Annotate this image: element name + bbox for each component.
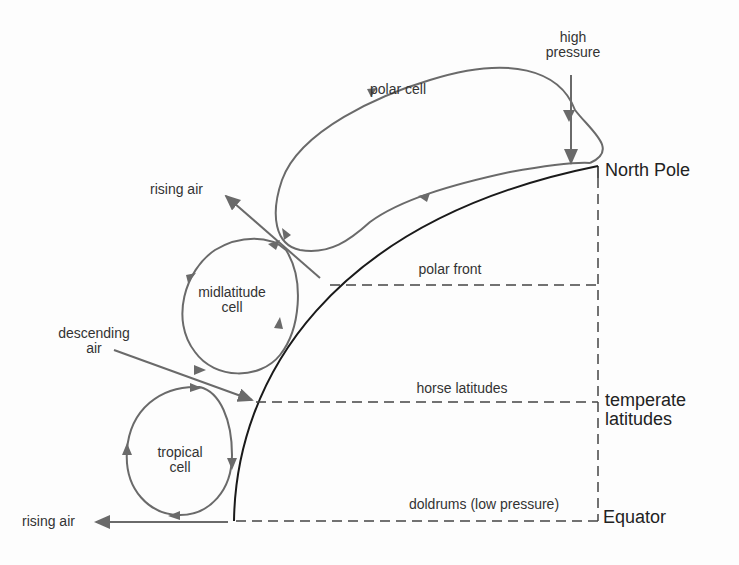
high-pressure-line1: high (546, 30, 600, 45)
temperate-line2: latitudes (605, 410, 686, 429)
midlatitude-line1: midlatitude (198, 285, 266, 300)
trop-arrow-1 (190, 383, 202, 392)
earth-surface-arc (234, 166, 598, 521)
polar-arrow-4 (282, 228, 291, 240)
atmospheric-circulation-diagram: high pressure polar cell North Pole risi… (0, 0, 739, 565)
tropical-cell-label: tropical cell (157, 445, 202, 474)
descending-air-arrow (114, 350, 252, 400)
midlatitude-cell-label: midlatitude cell (198, 285, 266, 314)
trop-arrow-3 (168, 511, 180, 520)
polar-cell-loop (276, 68, 603, 251)
rising-air-bottom-label: rising air (22, 514, 75, 529)
descending-air-label: descending air (58, 326, 130, 355)
horse-latitudes-label: horse latitudes (416, 381, 507, 396)
temperate-line1: temperate (605, 391, 686, 410)
mid-arrow-3 (194, 365, 206, 375)
descending-air-line1: descending (58, 326, 130, 341)
mid-arrow-2 (186, 273, 196, 283)
high-pressure-label: high pressure (546, 30, 600, 59)
north-pole-label: North Pole (605, 161, 690, 180)
tropical-line2: cell (157, 460, 202, 475)
midlatitude-line2: cell (198, 300, 266, 315)
rising-air-top-arrow (226, 196, 320, 278)
doldrums-label: doldrums (low pressure) (409, 497, 559, 512)
polar-cell-label: polar cell (370, 82, 426, 97)
high-pressure-line2: pressure (546, 45, 600, 60)
polar-arrow-2 (563, 110, 575, 122)
descending-air-line2: air (58, 341, 130, 356)
rising-air-top-label: rising air (150, 182, 203, 197)
trop-arrow-2 (227, 458, 237, 470)
temperate-latitudes-label: temperate latitudes (605, 391, 686, 429)
trop-arrow-4 (122, 443, 132, 455)
mid-arrow-4 (274, 317, 283, 329)
tropical-line1: tropical (157, 445, 202, 460)
equator-label: Equator (603, 508, 666, 527)
polar-front-label: polar front (418, 262, 481, 277)
